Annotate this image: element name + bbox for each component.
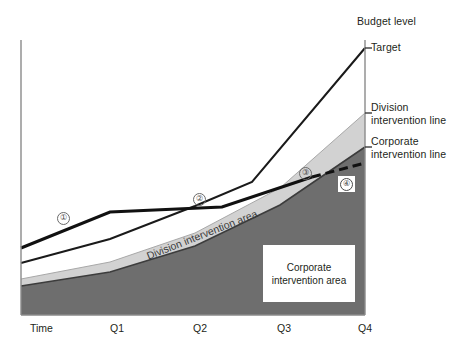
x-tick-q4: Q4 xyxy=(358,322,372,334)
callout-4-marker: ④ xyxy=(340,178,353,191)
legend-corporate-intervention-line-label: Corporate intervention line xyxy=(371,135,446,160)
budget-level-label: Budget level xyxy=(357,15,416,28)
callout-4: ④ xyxy=(338,176,355,192)
callout-3: ③ xyxy=(299,167,312,180)
corporate-intervention-area-label: Corporate intervention area xyxy=(263,245,355,302)
x-tick-q3: Q3 xyxy=(277,322,291,334)
callout-1: ① xyxy=(57,212,70,225)
legend-division-intervention-line-label: Division intervention line xyxy=(371,101,446,126)
callout-1-marker: ① xyxy=(57,212,70,225)
callout-2: ② xyxy=(193,193,206,206)
x-tick-q1: Q1 xyxy=(110,322,124,334)
x-tick-time: Time xyxy=(30,322,53,334)
callout-2-marker: ② xyxy=(193,193,206,206)
callout-3-marker: ③ xyxy=(299,167,312,180)
legend-target-label: Target xyxy=(371,41,401,54)
x-tick-q2: Q2 xyxy=(193,322,207,334)
budget-intervention-chart: Budget level Target Division interventio… xyxy=(0,0,466,350)
